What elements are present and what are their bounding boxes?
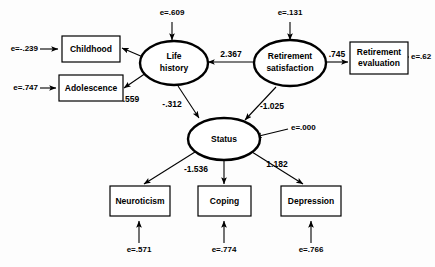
node-label-status: Status bbox=[211, 134, 237, 144]
coef-life-history-to-status: -.312 bbox=[162, 99, 182, 109]
diagram-canvas: Childhood Adolescence Retirement evaluat… bbox=[0, 0, 435, 267]
coef-status-to-depression: 1.182 bbox=[266, 159, 288, 169]
node-label-life-history-line1: Life bbox=[166, 51, 181, 61]
error-label-adolescence: e=.747 bbox=[13, 83, 38, 92]
coef-retirement-satisfaction-to-status: -1.025 bbox=[260, 101, 284, 111]
node-label-childhood: Childhood bbox=[70, 44, 112, 54]
coef-retirement-satisfaction-to-life-history: 2.367 bbox=[220, 49, 242, 59]
error-label-retirement-evaluation: e=.62 bbox=[411, 52, 432, 61]
error-label-neuroticism: e=.571 bbox=[127, 245, 152, 254]
error-label-coping: e=.774 bbox=[212, 245, 237, 254]
node-label-depression: Depression bbox=[288, 196, 334, 206]
error-label-retirement-satisfaction: e=.131 bbox=[278, 8, 303, 17]
error-label-life-history: e=.609 bbox=[160, 8, 185, 17]
error-label-childhood: e=-.239 bbox=[11, 44, 39, 53]
node-label-retirement-evaluation-line2: evaluation bbox=[358, 58, 400, 68]
node-label-adolescence: Adolescence bbox=[65, 83, 118, 93]
path-life-history-to-adolescence bbox=[124, 73, 146, 88]
error-label-status: e=.000 bbox=[291, 123, 316, 132]
node-label-retirement-evaluation-line1: Retirement bbox=[357, 47, 402, 57]
coef-retirement-satisfaction-to-retirement-evaluation: .745 bbox=[329, 49, 346, 59]
node-label-retirement-satisfaction-line1: Retirement bbox=[268, 51, 313, 61]
node-label-retirement-satisfaction-line2: satisfaction bbox=[266, 63, 313, 73]
path-life-history-to-childhood bbox=[122, 48, 143, 57]
coef-status-to-neuroticism: -1.536 bbox=[184, 164, 208, 174]
error-label-depression: e=.766 bbox=[299, 245, 324, 254]
node-label-neuroticism: Neuroticism bbox=[115, 196, 165, 206]
node-label-life-history-line2: history bbox=[160, 63, 189, 73]
coef-life-history-to-adolescence: .559 bbox=[123, 94, 140, 104]
node-label-coping: Coping bbox=[210, 196, 239, 206]
sem-path-diagram: Childhood Adolescence Retirement evaluat… bbox=[0, 0, 435, 267]
